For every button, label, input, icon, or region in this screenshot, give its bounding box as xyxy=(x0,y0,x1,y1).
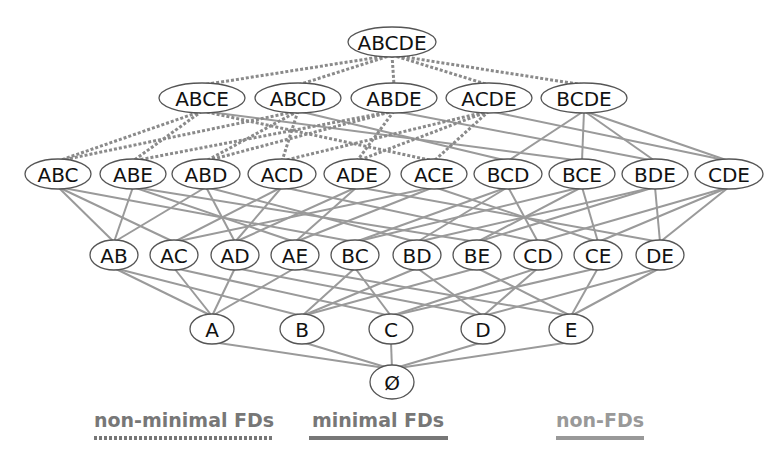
edge-E-Ø xyxy=(392,342,571,369)
svg-text:CE: CE xyxy=(585,244,612,268)
node-ACD: ACD xyxy=(248,159,316,189)
edge-ABCDE-ABDE xyxy=(392,55,394,85)
node-CE: CE xyxy=(574,240,622,270)
svg-text:BE: BE xyxy=(464,244,490,268)
edge-ABDE-ABD xyxy=(206,111,394,161)
svg-text:BCE: BCE xyxy=(562,163,602,187)
node-AE: AE xyxy=(271,240,319,270)
node-DE: DE xyxy=(636,240,684,270)
node-BCD: BCD xyxy=(474,159,542,189)
edge-BCE-CE xyxy=(582,187,598,242)
node-ABE: ABE xyxy=(100,159,166,189)
legend-non-minimal-fds: non-minimal FDs xyxy=(94,409,274,431)
svg-text:ABCE: ABCE xyxy=(175,87,229,111)
edge-CD-C xyxy=(391,268,538,316)
node-AC: AC xyxy=(150,240,198,270)
svg-text:ADE: ADE xyxy=(336,163,378,187)
node-ABCD: ABCD xyxy=(255,83,341,113)
lattice-nodes: ABCDEABCEABCDABDEACDEBCDEABCABEABDACDADE… xyxy=(25,27,763,399)
svg-text:ABDE: ABDE xyxy=(366,87,421,111)
node-BCDE: BCDE xyxy=(541,83,627,113)
legend-label-non-fds: non-FDs xyxy=(556,409,644,431)
edge-ABCDE-ABCE xyxy=(202,55,392,85)
node-D: D xyxy=(461,314,505,344)
svg-text:B: B xyxy=(295,318,309,342)
svg-text:BCDE: BCDE xyxy=(556,87,611,111)
svg-text:ACDE: ACDE xyxy=(461,87,516,111)
edge-BDE-DE xyxy=(655,187,660,242)
edge-ABCDE-BCDE xyxy=(392,55,584,85)
node-ABCE: ABCE xyxy=(159,83,245,113)
svg-text:BCD: BCD xyxy=(487,163,530,187)
svg-text:CD: CD xyxy=(523,244,552,268)
edge-AB-A xyxy=(114,268,212,316)
solid-dark-line-swatch xyxy=(309,436,448,440)
edge-ACD-AD xyxy=(235,187,282,242)
edge-ACE-CE xyxy=(434,187,598,242)
svg-text:CDE: CDE xyxy=(708,163,750,187)
edge-CDE-DE xyxy=(660,187,729,242)
node-CDE: CDE xyxy=(695,159,763,189)
svg-text:ABD: ABD xyxy=(185,163,228,187)
node-BC: BC xyxy=(331,240,379,270)
svg-text:ABCD: ABCD xyxy=(270,87,326,111)
svg-text:BC: BC xyxy=(341,244,368,268)
node-ABC: ABC xyxy=(25,159,91,189)
svg-text:ABCDE: ABCDE xyxy=(357,31,426,55)
node-ACE: ACE xyxy=(401,159,467,189)
legend-non-fds: non-FDs xyxy=(556,409,644,431)
node-BD: BD xyxy=(393,240,441,270)
edge-ABCDE-ACDE xyxy=(392,55,489,85)
svg-text:ACD: ACD xyxy=(261,163,304,187)
edge-ADE-AD xyxy=(235,187,357,242)
edge-ADE-DE xyxy=(357,187,660,242)
svg-text:BDE: BDE xyxy=(634,163,676,187)
node-ADE: ADE xyxy=(324,159,390,189)
node-empty-set: Ø xyxy=(370,365,414,399)
edge-ABCDE-ABCD xyxy=(298,55,392,85)
node-AB: AB xyxy=(90,240,138,270)
node-C: C xyxy=(369,314,413,344)
edge-D-Ø xyxy=(392,342,483,369)
node-E: E xyxy=(549,314,593,344)
edge-BCE-BC xyxy=(355,187,582,242)
edge-ACDE-ACD xyxy=(282,111,489,161)
svg-text:AC: AC xyxy=(160,244,187,268)
svg-text:AE: AE xyxy=(282,244,308,268)
svg-text:DE: DE xyxy=(646,244,674,268)
node-B: B xyxy=(280,314,324,344)
svg-text:ABE: ABE xyxy=(113,163,153,187)
node-A: A xyxy=(190,314,234,344)
svg-text:AD: AD xyxy=(220,244,249,268)
svg-text:A: A xyxy=(205,318,219,342)
edge-B-Ø xyxy=(302,342,392,369)
solid-light-line-swatch xyxy=(556,436,644,440)
node-CD: CD xyxy=(514,240,562,270)
svg-text:Ø: Ø xyxy=(384,371,400,395)
node-BDE: BDE xyxy=(622,159,688,189)
svg-text:BD: BD xyxy=(402,244,431,268)
edge-ACD-CD xyxy=(282,187,538,242)
legend-label-non-minimal: non-minimal FDs xyxy=(94,409,274,431)
node-ABD: ABD xyxy=(172,159,240,189)
node-AD: AD xyxy=(211,240,259,270)
edge-A-Ø xyxy=(212,342,392,369)
node-BE: BE xyxy=(453,240,501,270)
dotted-line-swatch xyxy=(94,436,274,440)
legend-label-minimal: minimal FDs xyxy=(312,409,444,431)
svg-text:C: C xyxy=(384,318,398,342)
legend-minimal-fds: minimal FDs xyxy=(312,409,444,431)
edge-BCDE-BCE xyxy=(582,111,584,161)
node-ABDE: ABDE xyxy=(351,83,437,113)
edge-CE-C xyxy=(391,268,598,316)
svg-text:ACE: ACE xyxy=(414,163,454,187)
svg-text:D: D xyxy=(475,318,490,342)
lattice-diagram: ABCDEABCEABCDABDEACDEBCDEABCABEABDACDADE… xyxy=(0,0,784,473)
svg-text:ABC: ABC xyxy=(37,163,78,187)
node-ACDE: ACDE xyxy=(446,83,532,113)
node-BCE: BCE xyxy=(549,159,615,189)
node-ABCDE: ABCDE xyxy=(348,27,436,57)
svg-text:AB: AB xyxy=(100,244,127,268)
svg-text:E: E xyxy=(565,318,578,342)
